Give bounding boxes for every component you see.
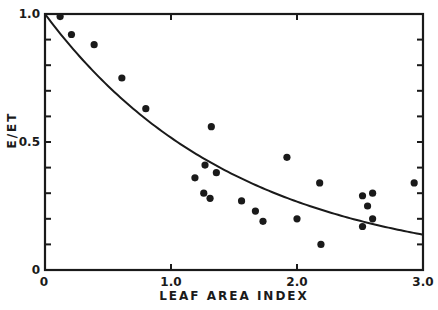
data-point	[316, 179, 323, 186]
data-point	[259, 218, 266, 225]
data-point	[411, 179, 418, 186]
plot-frame	[45, 14, 423, 270]
x-tick-label: 2.0	[286, 275, 307, 289]
data-point	[201, 161, 208, 168]
data-points	[57, 13, 418, 248]
data-point	[359, 223, 366, 230]
y-axis-label: E/ET	[5, 112, 19, 149]
data-point	[252, 208, 259, 215]
chart: 01.02.03.0 00.51.0 LEAF AREA INDEX E/ET	[0, 0, 438, 310]
data-point	[317, 241, 324, 248]
y-tick-label: 1.0	[19, 7, 40, 21]
x-tick-label: 0	[40, 275, 48, 289]
data-point	[213, 169, 220, 176]
data-point	[293, 215, 300, 222]
data-point	[364, 202, 371, 209]
data-point	[369, 190, 376, 197]
data-point	[369, 215, 376, 222]
x-tick-labels: 01.02.03.0	[40, 275, 434, 289]
x-tick-label: 1.0	[160, 275, 181, 289]
data-point	[91, 41, 98, 48]
data-point	[283, 154, 290, 161]
fitted-curve	[45, 14, 423, 235]
x-axis-label: LEAF AREA INDEX	[159, 289, 309, 303]
data-point	[206, 195, 213, 202]
plot-border	[45, 14, 423, 270]
data-point	[57, 13, 64, 20]
data-point	[208, 123, 215, 130]
data-point	[238, 197, 245, 204]
y-tick-labels: 00.51.0	[19, 7, 40, 277]
data-point	[68, 31, 75, 38]
data-point	[359, 192, 366, 199]
data-point	[142, 105, 149, 112]
x-tick-label: 3.0	[412, 275, 433, 289]
y-tick-label: 0.5	[19, 135, 40, 149]
y-tick-label: 0	[32, 263, 40, 277]
data-point	[200, 190, 207, 197]
data-point	[191, 174, 198, 181]
data-point	[118, 74, 125, 81]
axis-ticks	[45, 14, 423, 270]
